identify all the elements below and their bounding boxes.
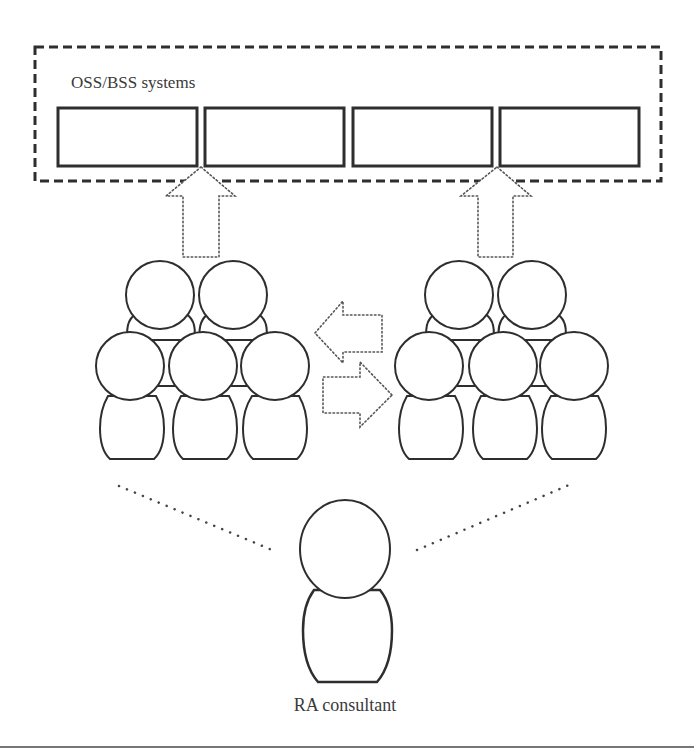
person-head-icon (96, 332, 164, 400)
person-body-icon (473, 396, 537, 459)
person-body-icon (399, 396, 463, 459)
person-body-icon (303, 590, 392, 682)
system-box-3 (353, 108, 492, 166)
right-arrow-icon (323, 362, 392, 427)
left-arrow-icon (315, 301, 382, 363)
person-head-icon (498, 261, 566, 329)
left-team-group (96, 261, 309, 459)
consultant-sightline-left (119, 486, 272, 550)
person-body-icon (243, 396, 307, 459)
right-team-group (395, 261, 608, 459)
systems-label: OSS/BSS systems (71, 73, 195, 92)
system-box-2 (205, 108, 344, 166)
person-head-icon (169, 332, 237, 400)
oss-bss-systems-group: OSS/BSS systems (35, 47, 661, 181)
person-head-icon (540, 332, 608, 400)
person-head-icon (241, 332, 309, 400)
person-body-icon (100, 396, 164, 459)
system-box-4 (500, 108, 639, 166)
person-head-icon (126, 261, 194, 329)
person-head-icon (199, 261, 267, 329)
person-head-icon (469, 332, 537, 400)
consultant-sightline-right (417, 485, 569, 550)
system-box-1 (58, 108, 197, 166)
person-head-icon (300, 500, 390, 598)
person-head-icon (395, 332, 463, 400)
person-body-icon (173, 396, 237, 459)
person-body-icon (542, 396, 606, 459)
consultant-figure (300, 500, 392, 682)
person-head-icon (425, 261, 493, 329)
diagram-canvas: OSS/BSS systems (0, 0, 694, 749)
consultant-label: RA consultant (294, 695, 397, 715)
systems-dashed-border (35, 47, 661, 181)
